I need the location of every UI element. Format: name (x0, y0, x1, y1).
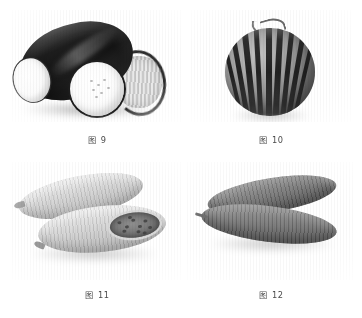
figure-cell-11: 图 11 (8, 162, 186, 314)
pale-gourds-photo (12, 162, 182, 280)
winter-melon-photo (12, 10, 182, 122)
figure-plate: 图 9 (0, 0, 362, 318)
watermelon-photo (191, 10, 351, 122)
figure-image-10 (191, 10, 351, 122)
figure-cell-9: 图 9 (8, 10, 186, 158)
figure-image-9 (12, 10, 182, 122)
watermelon-body (225, 28, 315, 116)
figure-caption-11: 图 11 (85, 288, 109, 300)
figure-caption-10: 图 10 (259, 133, 283, 145)
melon-cut-face-center (70, 62, 124, 116)
figure-cell-12: 图 12 (186, 162, 356, 314)
figure-caption-9: 图 9 (88, 133, 106, 145)
dark-cucumbers-photo (187, 162, 355, 280)
figure-image-11 (12, 162, 182, 280)
figure-cell-10: 图 10 (186, 10, 356, 158)
figure-caption-12: 图 12 (259, 288, 283, 300)
figure-image-12 (187, 162, 355, 280)
